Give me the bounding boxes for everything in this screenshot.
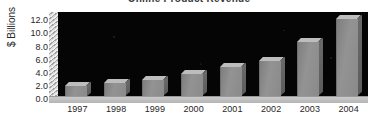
chart-title: Online Product Revenue bbox=[0, 0, 378, 2]
bar-top-face bbox=[336, 15, 361, 19]
y-tick-label: 6.0 bbox=[35, 56, 48, 58]
bar-front-face bbox=[259, 61, 281, 96]
x-tick-label: 1999 bbox=[145, 104, 165, 114]
y-tick-label: 2.0 bbox=[35, 82, 48, 84]
x-tick-label: 2002 bbox=[261, 104, 281, 114]
bar-front-face bbox=[336, 19, 358, 96]
plot-floor bbox=[49, 96, 368, 103]
bar-top-face bbox=[65, 82, 90, 86]
x-axis-ticks: 19971998199920002001200220032004 bbox=[49, 104, 368, 118]
bar-front-face bbox=[220, 67, 242, 96]
bar-top-face bbox=[104, 79, 129, 83]
y-tick-label: 10.0 bbox=[30, 29, 48, 31]
y-tick-label: 8.0 bbox=[35, 43, 48, 45]
bar-top-face bbox=[181, 70, 206, 74]
bar-1998 bbox=[104, 83, 125, 96]
bar-top-face bbox=[297, 38, 322, 42]
bar-front-face bbox=[65, 86, 87, 97]
bar-front-face bbox=[104, 83, 126, 96]
y-tick-label: 12.0 bbox=[30, 16, 48, 18]
bar-top-face bbox=[259, 57, 284, 61]
bar-front-face bbox=[297, 42, 319, 96]
bar-2003 bbox=[297, 42, 318, 96]
x-tick-label: 2003 bbox=[300, 104, 320, 114]
bar-chart: Online Product Revenue $ Billions 0.02.0… bbox=[0, 0, 378, 123]
bar-2004 bbox=[336, 19, 357, 96]
x-tick-label: 1997 bbox=[67, 104, 87, 114]
bar-front-face bbox=[142, 80, 164, 96]
x-tick-label: 2004 bbox=[339, 104, 359, 114]
y-axis-label: $ Billions bbox=[6, 0, 20, 62]
x-tick-label: 2001 bbox=[222, 104, 242, 114]
y-axis-ticks: 0.02.04.06.08.010.012.0 bbox=[20, 12, 48, 98]
bar-front-face bbox=[181, 74, 203, 96]
bar-2001 bbox=[220, 67, 241, 96]
plot-floor-edge bbox=[49, 96, 368, 97]
bar-2000 bbox=[181, 74, 202, 96]
bar-1997 bbox=[65, 86, 86, 97]
plot-area bbox=[58, 12, 368, 96]
x-tick-label: 1998 bbox=[106, 104, 126, 114]
bar-top-face bbox=[220, 63, 245, 67]
x-tick-label: 2000 bbox=[184, 104, 204, 114]
bar-1999 bbox=[142, 80, 163, 96]
bar-2002 bbox=[259, 61, 280, 96]
y-tick-label: 4.0 bbox=[35, 69, 48, 71]
y-tick-label: 0.0 bbox=[35, 95, 48, 97]
